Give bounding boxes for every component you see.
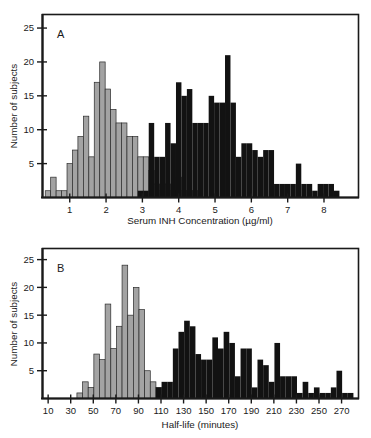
histogram-bar	[122, 265, 128, 398]
histogram-bar	[263, 365, 269, 398]
histogram-bar	[145, 371, 151, 399]
histogram-bar	[184, 321, 190, 399]
panel-a-bars	[45, 55, 339, 197]
histogram-bar	[178, 332, 184, 399]
histogram-bar	[296, 164, 301, 198]
histogram-bar	[78, 137, 83, 198]
y-tick-label: 5	[29, 158, 34, 169]
y-tick-label: 20	[23, 56, 34, 67]
y-tick-label: 25	[23, 254, 34, 265]
histogram-bar	[286, 376, 292, 398]
histogram-bar	[100, 62, 105, 198]
panel-a-svg: 510152025 12345678 A Number of subjects …	[0, 0, 371, 232]
figure-container: 510152025 12345678 A Number of subjects …	[0, 0, 371, 438]
histogram-bar	[230, 103, 235, 198]
histogram-bar	[246, 349, 252, 399]
histogram-bar	[198, 123, 203, 198]
histogram-bar	[128, 315, 134, 398]
histogram-bar	[301, 184, 306, 198]
x-tick-label: 3	[140, 204, 145, 215]
histogram-bar	[154, 157, 159, 198]
histogram-bar	[274, 343, 280, 399]
histogram-bar	[149, 123, 154, 198]
histogram-bar	[181, 96, 186, 198]
y-tick-label: 15	[23, 310, 34, 321]
histogram-bar	[241, 349, 247, 399]
histogram-bar	[133, 287, 139, 398]
panel-b-bars	[77, 265, 354, 398]
panel-b-letter: B	[57, 262, 64, 274]
y-tick-label: 10	[23, 124, 34, 135]
histogram-bar	[201, 360, 207, 399]
histogram-bar	[307, 184, 312, 198]
panel-a: 510152025 12345678 A Number of subjects …	[0, 0, 371, 232]
histogram-bar	[303, 382, 309, 399]
x-tick-label: 90	[133, 405, 144, 416]
x-tick-label: 5	[212, 204, 217, 215]
histogram-bar	[111, 109, 116, 197]
panel-b-svg: 510152025 103050709011013015017019021023…	[0, 232, 371, 438]
histogram-bar	[252, 150, 257, 197]
histogram-bar	[94, 354, 100, 398]
panel-b-y-label: Number of subjects	[8, 282, 19, 366]
y-tick-label: 20	[23, 282, 34, 293]
histogram-bar	[94, 82, 99, 197]
histogram-bar	[280, 184, 285, 198]
histogram-bar	[132, 137, 137, 198]
histogram-bar	[116, 326, 122, 398]
histogram-bar	[212, 337, 218, 398]
panel-b-x-label: Half-life (minutes)	[162, 419, 239, 430]
histogram-bar	[331, 387, 337, 398]
histogram-bar	[280, 376, 286, 398]
x-tick-label: 130	[176, 405, 192, 416]
x-tick-label: 230	[289, 405, 305, 416]
x-tick-label: 7	[285, 204, 290, 215]
y-tick-label: 25	[23, 22, 34, 33]
x-tick-label: 150	[198, 405, 214, 416]
histogram-bar	[127, 137, 132, 198]
panel-b: 510152025 103050709011013015017019021023…	[0, 232, 371, 438]
y-tick-label: 10	[23, 337, 34, 348]
x-tick-label: 8	[321, 204, 326, 215]
x-tick-label: 190	[243, 405, 259, 416]
histogram-bar	[258, 157, 263, 198]
histogram-bar	[83, 382, 89, 399]
histogram-bar	[83, 116, 88, 197]
x-tick-label: 10	[43, 405, 54, 416]
x-tick-label: 270	[334, 405, 350, 416]
x-tick-label: 250	[311, 405, 327, 416]
histogram-bar	[203, 123, 208, 198]
histogram-bar	[269, 150, 274, 197]
x-tick-label: 4	[176, 204, 181, 215]
histogram-bar	[224, 332, 230, 399]
histogram-bar	[67, 164, 72, 198]
histogram-bar	[105, 89, 110, 197]
histogram-bar	[329, 184, 334, 198]
histogram-bar	[167, 382, 173, 399]
x-tick-label: 170	[221, 405, 237, 416]
histogram-bar	[235, 376, 241, 398]
histogram-bar	[89, 157, 94, 198]
histogram-bar	[72, 150, 77, 197]
histogram-bar	[171, 143, 176, 197]
histogram-bar	[220, 103, 225, 198]
histogram-bar	[165, 123, 170, 198]
histogram-bar	[257, 360, 263, 399]
histogram-bar	[150, 382, 156, 399]
histogram-bar	[225, 55, 230, 197]
x-tick-label: 30	[65, 405, 76, 416]
histogram-bar	[247, 143, 252, 197]
histogram-bar	[290, 184, 295, 198]
y-tick-label: 15	[23, 90, 34, 101]
histogram-bar	[229, 343, 235, 399]
y-tick-label: 5	[29, 365, 34, 376]
histogram-bar	[190, 326, 196, 398]
x-tick-label: 210	[266, 405, 282, 416]
histogram-bar	[160, 157, 165, 198]
histogram-bar	[139, 310, 145, 399]
histogram-bar	[173, 349, 179, 399]
histogram-bar	[111, 349, 117, 399]
x-tick-label: 2	[103, 204, 108, 215]
x-tick-label: 70	[111, 405, 122, 416]
histogram-bar	[252, 387, 258, 398]
